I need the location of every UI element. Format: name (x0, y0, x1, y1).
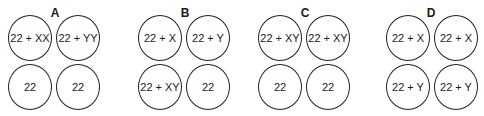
cell-circle: 22 + XY (138, 64, 182, 110)
panel-label: B (175, 6, 195, 20)
panel-label: D (421, 6, 441, 20)
cell-circle: 22 + XX (8, 15, 52, 61)
cell-circle: 22 + Y (434, 64, 478, 110)
cell-circle: 22 + XY (258, 15, 302, 61)
panel-a: A 22 + XX 22 + YY 22 22 (0, 0, 121, 116)
cell-circle: 22 (258, 64, 302, 110)
panel-d: D 22 + X 22 + X 22 + Y 22 + Y (363, 0, 484, 116)
cell-circle: 22 + X (386, 15, 430, 61)
cell-circle: 22 (8, 64, 52, 110)
cell-circle: 22 (186, 64, 230, 110)
cell-circle: 22 + Y (386, 64, 430, 110)
cell-circle: 22 + X (138, 15, 182, 61)
cell-circle: 22 + Y (186, 15, 230, 61)
cell-circle: 22 + YY (56, 15, 100, 61)
panel-c: C 22 + XY 22 + XY 22 22 (242, 0, 363, 116)
cell-circle: 22 + X (434, 15, 478, 61)
panel-label: C (295, 6, 315, 20)
cell-circle: 22 (56, 64, 100, 110)
cell-circle: 22 + XY (306, 15, 350, 61)
cell-circle: 22 (306, 64, 350, 110)
panel-b: B 22 + X 22 + Y 22 + XY 22 (121, 0, 242, 116)
panel-label: A (45, 6, 65, 20)
